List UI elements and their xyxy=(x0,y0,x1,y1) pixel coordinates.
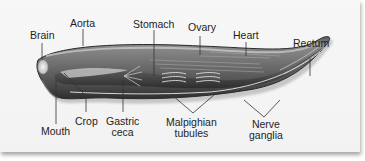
label-gastric-ceca-line2: ceca xyxy=(106,127,139,138)
label-brain: Brain xyxy=(30,30,55,41)
label-rectum: Rectum xyxy=(293,38,329,49)
label-malpighian-tubules: Malpighian tubules xyxy=(166,117,217,139)
label-ovary: Ovary xyxy=(188,22,216,33)
label-nerve-ganglia-line2: ganglia xyxy=(249,130,283,141)
label-heart: Heart xyxy=(233,30,259,41)
label-stomach: Stomach xyxy=(133,19,174,30)
label-crop: Crop xyxy=(75,116,98,127)
label-gastric-ceca: Gastric ceca xyxy=(106,116,139,138)
label-mouth: Mouth xyxy=(41,126,70,137)
nerve-ganglia-leader xyxy=(244,100,280,117)
brain xyxy=(38,60,48,74)
insect-body xyxy=(37,37,330,99)
label-nerve-ganglia: Nerve ganglia xyxy=(249,119,283,141)
label-aorta: Aorta xyxy=(70,18,95,29)
label-malpighian-line2: tubules xyxy=(166,128,217,139)
